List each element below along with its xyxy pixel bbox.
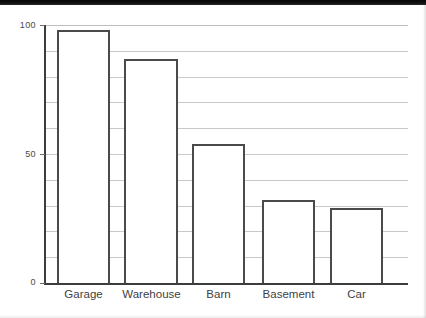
- plot-area: [45, 25, 408, 283]
- y-tick-50: [40, 154, 45, 155]
- y-axis-tick-label-100: 100: [20, 20, 36, 30]
- x-axis-label-car: Car: [318, 288, 395, 300]
- y-axis-labels: 100 50 0: [0, 0, 40, 318]
- x-axis-line: [44, 283, 408, 285]
- bar-car[interactable]: [330, 208, 383, 283]
- gridline-100: [45, 25, 408, 26]
- y-axis-tick-label-50: 50: [25, 149, 36, 159]
- x-axis-label-barn: Barn: [180, 288, 257, 300]
- x-axis-label-basement: Basement: [250, 288, 327, 300]
- y-tick-0: [40, 283, 45, 284]
- bar-garage[interactable]: [57, 30, 110, 283]
- bar-warehouse[interactable]: [124, 59, 178, 283]
- y-axis-tick-label-0: 0: [31, 277, 36, 287]
- bar-chart: 100 50 0 Garage Warehouse Barn Basement …: [0, 0, 426, 318]
- bar-barn[interactable]: [192, 144, 245, 283]
- y-tick-100: [40, 25, 45, 26]
- bar-basement[interactable]: [262, 200, 315, 283]
- x-axis-labels: Garage Warehouse Barn Basement Car: [45, 288, 408, 312]
- x-axis-label-garage: Garage: [45, 288, 122, 300]
